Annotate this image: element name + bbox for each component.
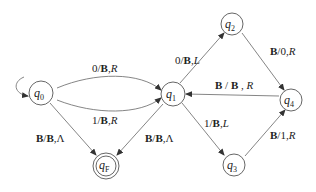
state-q4: q4 <box>280 89 302 111</box>
label-q1-qF: B/B,Λ <box>145 132 174 144</box>
state-q0: q0 <box>29 81 53 105</box>
label-q1-q2: 0/B,L <box>175 54 200 66</box>
label-q4-q1: B / B , R <box>215 79 254 91</box>
label-q0-qF: B/B,Λ <box>36 132 65 144</box>
edge-q0-qF <box>50 103 96 155</box>
edge-q4-q1 <box>186 94 279 96</box>
label-q2-q4: B/0,R <box>270 45 296 57</box>
label-q1-q3: 1/B,L <box>204 117 229 129</box>
label-q0-q1-bottom: 1/B,R <box>92 114 118 126</box>
edge-q0-q1-top <box>57 76 161 90</box>
start-arrow <box>16 77 28 96</box>
label-q3-q4: B/1,R <box>270 129 296 141</box>
state-diagram: q0 q1 q2 q3 q4 qF 0/B,R 1/B,R B/B,Λ B/B,… <box>0 0 316 192</box>
state-q2: q2 <box>221 13 243 35</box>
state-q1: q1 <box>161 82 185 106</box>
edge-q0-q1-bottom <box>57 98 161 111</box>
state-qF-accepting: qF <box>93 153 119 179</box>
edge-q1-q3 <box>182 103 224 155</box>
edge-q1-qF <box>117 104 163 155</box>
label-q0-q1-top: 0/B,R <box>92 62 118 74</box>
state-q3: q3 <box>223 154 245 176</box>
diagram-svg: q0 q1 q2 q3 q4 qF 0/B,R 1/B,R B/B,Λ B/B,… <box>0 0 316 192</box>
